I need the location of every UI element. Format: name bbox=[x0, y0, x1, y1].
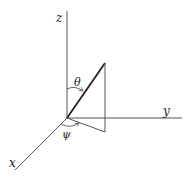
psi-arc-icon bbox=[61, 123, 79, 126]
x-axis bbox=[15, 118, 67, 170]
z-axis-label: z bbox=[55, 11, 63, 25]
theta-label: θ bbox=[74, 76, 81, 89]
y-axis-label: y bbox=[162, 104, 170, 118]
vector-line bbox=[67, 63, 105, 118]
diagram-canvas: z y x θ ψ bbox=[0, 0, 186, 182]
psi-label: ψ bbox=[62, 128, 71, 141]
axes-diagram: z y x θ ψ bbox=[0, 0, 186, 182]
x-axis-label: x bbox=[9, 156, 16, 170]
projection-horizontal bbox=[67, 118, 105, 132]
